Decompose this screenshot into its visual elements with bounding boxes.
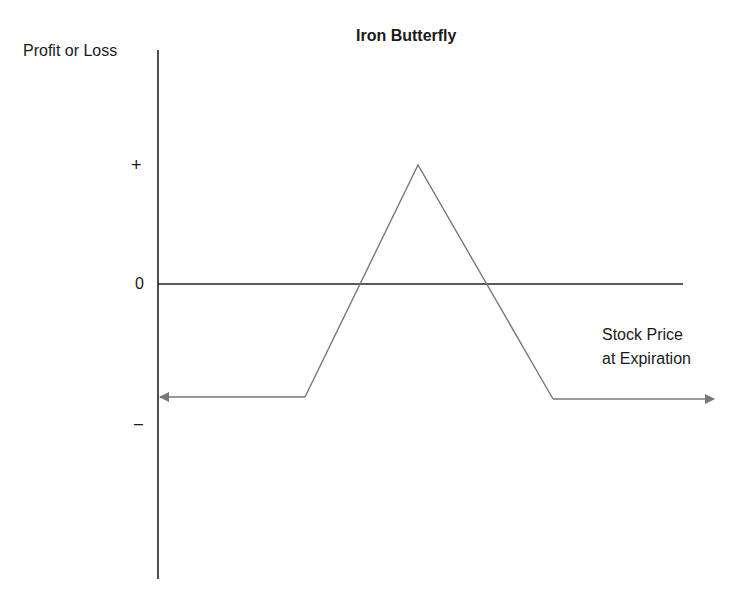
payoff-diagram	[0, 0, 741, 601]
payoff-line	[305, 165, 553, 399]
